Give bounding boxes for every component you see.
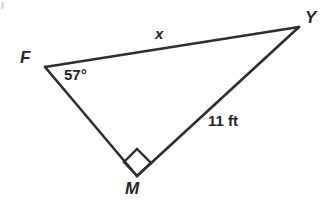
side-label-MY: 11 ft	[208, 113, 238, 128]
vertex-label-F: F	[20, 49, 30, 66]
segment-FM	[45, 67, 137, 176]
geometry-figure: F Y M x 57° 11 ft	[0, 0, 330, 210]
angle-label-F: 57°	[64, 67, 87, 82]
vertex-label-M: M	[125, 180, 139, 197]
right-angle-marker-icon	[124, 149, 151, 176]
vertex-label-Y: Y	[305, 9, 316, 26]
side-label-FY: x	[155, 26, 163, 41]
triangle-drawing	[0, 0, 330, 210]
